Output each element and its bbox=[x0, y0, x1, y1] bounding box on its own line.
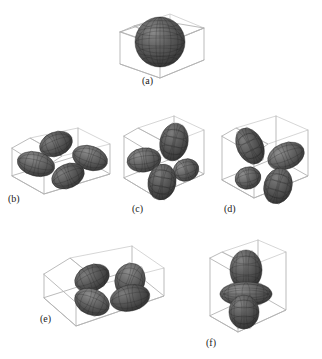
panel-label-a: (a) bbox=[142, 76, 153, 86]
panel-b-graphic bbox=[6, 116, 116, 216]
panel-label-d: (d) bbox=[224, 204, 236, 214]
panel-c: (c) bbox=[112, 112, 216, 218]
lobes-d bbox=[230, 123, 308, 207]
orbital-f bbox=[220, 250, 272, 329]
panel-e: (e) bbox=[36, 240, 172, 352]
panel-f: (f) bbox=[196, 236, 306, 356]
panel-a: (a) bbox=[108, 2, 212, 88]
panel-d: (d) bbox=[212, 112, 318, 218]
orbital-figure: (a) bbox=[0, 0, 322, 359]
panel-label-e: (e) bbox=[40, 314, 51, 324]
panel-label-f: (f) bbox=[206, 338, 216, 348]
panel-a-graphic bbox=[108, 2, 212, 88]
panel-e-graphic bbox=[36, 240, 172, 352]
panel-b: (b) bbox=[6, 116, 116, 216]
panel-label-b: (b) bbox=[8, 194, 20, 204]
panel-c-graphic bbox=[112, 112, 216, 218]
lobes-c bbox=[125, 121, 201, 203]
panel-label-c: (c) bbox=[132, 204, 143, 214]
sphere-surface-a bbox=[135, 17, 185, 67]
